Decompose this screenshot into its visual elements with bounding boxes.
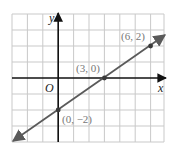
point-label-6-2: (6, 2) bbox=[121, 30, 145, 43]
point-0-neg2 bbox=[56, 108, 61, 113]
point-label-0-neg2: (0, −2) bbox=[62, 113, 92, 126]
origin-label: O bbox=[45, 81, 54, 95]
point-label-3-0: (3, 0) bbox=[76, 62, 100, 75]
point-3-0 bbox=[102, 76, 107, 81]
point-6-2 bbox=[148, 44, 153, 49]
x-axis-label: x bbox=[157, 81, 164, 95]
y-axis-label: y bbox=[48, 11, 55, 25]
coordinate-plane: y x O (0, −2) (3, 0) (6, 2) bbox=[0, 0, 171, 151]
